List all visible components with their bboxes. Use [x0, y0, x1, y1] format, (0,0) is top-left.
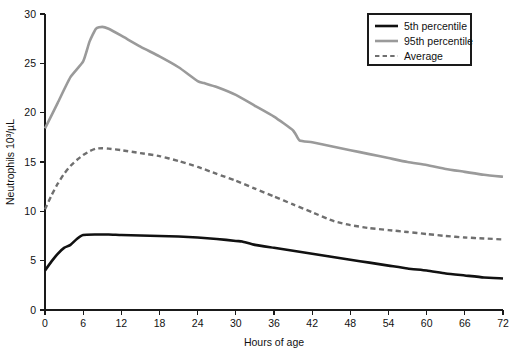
series-line-average	[45, 148, 503, 239]
y-tick-marks	[40, 14, 45, 310]
legend-label-95th-percentile: 95th percentile	[404, 35, 473, 47]
x-tick-label: 72	[497, 317, 509, 329]
y-tick-label: 20	[24, 106, 36, 118]
y-tick-label: 5	[30, 254, 36, 266]
y-tick-label: 25	[24, 57, 36, 69]
x-axis-group: 061218243036424854606672 Hours of age	[42, 310, 509, 348]
x-tick-label: 66	[459, 317, 471, 329]
x-tick-label: 18	[154, 317, 166, 329]
y-tick-label: 10	[24, 205, 36, 217]
x-tick-label: 36	[268, 317, 280, 329]
y-axis-title: Neutrophils 10³/µL	[4, 119, 16, 205]
x-tick-label: 60	[421, 317, 433, 329]
x-tick-label: 24	[192, 317, 204, 329]
x-tick-labels: 061218243036424854606672	[42, 317, 509, 329]
x-tick-marks	[45, 310, 503, 315]
y-tick-label: 15	[24, 156, 36, 168]
series-line-5th-percentile	[45, 234, 503, 278]
x-tick-label: 42	[306, 317, 318, 329]
x-tick-label: 6	[80, 317, 86, 329]
x-tick-label: 0	[42, 317, 48, 329]
x-tick-label: 30	[230, 317, 242, 329]
chart-plot-area: 051015202530 Neutrophils 10³/µL 06121824…	[0, 0, 517, 350]
x-tick-label: 12	[115, 317, 127, 329]
chart-figure: 051015202530 Neutrophils 10³/µL 06121824…	[0, 0, 517, 350]
x-axis-title: Hours of age	[244, 336, 304, 348]
y-tick-label: 30	[24, 8, 36, 20]
y-tick-labels: 051015202530	[24, 8, 36, 316]
legend-label-average: Average	[404, 50, 443, 62]
y-tick-label: 0	[30, 304, 36, 316]
x-tick-label: 54	[383, 317, 395, 329]
x-tick-label: 48	[344, 317, 356, 329]
legend-label-5th-percentile: 5th percentile	[404, 20, 467, 32]
y-axis-group: 051015202530 Neutrophils 10³/µL	[4, 8, 45, 316]
chart-legend: 5th percentile95th percentileAverage	[368, 14, 473, 65]
